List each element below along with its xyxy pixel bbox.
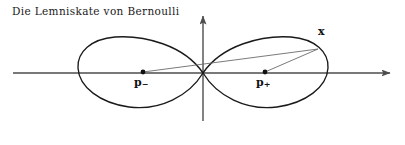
label-p-minus: p− (134, 76, 148, 89)
label-point-x: x (318, 25, 325, 38)
label-p-minus-letter: p (134, 76, 142, 89)
label-p-plus-letter: p (256, 76, 264, 89)
point-p-minus (141, 70, 146, 75)
label-p-plus-subscript: + (264, 79, 271, 89)
lemniscate-figure: Die Lemniskate von Bernoulli p− p+ x (0, 0, 405, 145)
lemniscate-plot (0, 0, 405, 145)
lemniscate-left-loop (78, 37, 203, 108)
label-p-plus: p+ (256, 76, 270, 89)
label-p-minus-subscript: − (142, 79, 149, 89)
point-p-plus (263, 70, 268, 75)
